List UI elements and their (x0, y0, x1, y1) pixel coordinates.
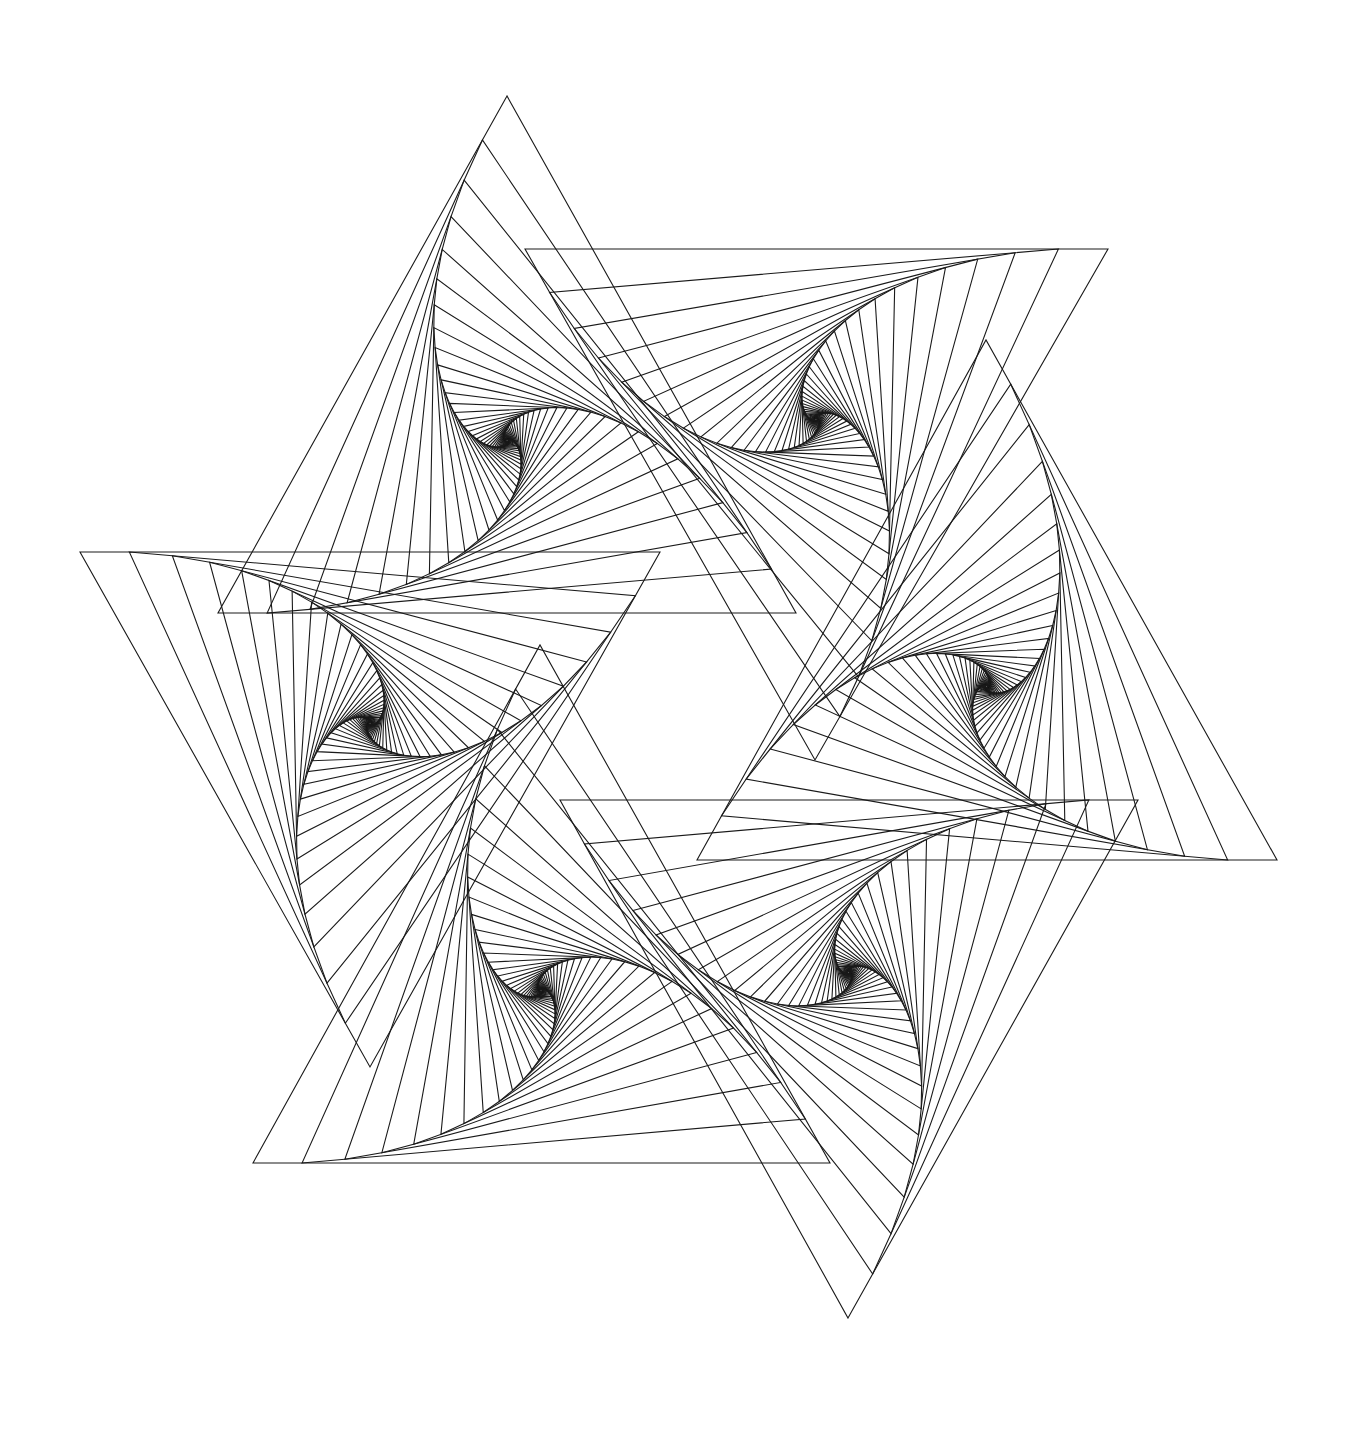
whirl-triangle (683, 299, 889, 531)
whirl-triangle (345, 729, 781, 1159)
whirl-triangle (379, 249, 700, 594)
whirl-triangle (855, 573, 1060, 809)
whirl-triangle (697, 340, 1277, 860)
whirl-triangle (310, 180, 747, 609)
whirl-triangle (836, 550, 1065, 821)
whirl-triangle (434, 328, 639, 563)
whirl-triangle (242, 571, 564, 914)
vortex-top-left (218, 96, 796, 613)
whirl-triangle (429, 305, 657, 574)
artwork-canvas: Hexagram of six whirling triangles (0, 0, 1355, 1439)
vortex-left (80, 552, 660, 1067)
whirl-triangle (292, 591, 521, 859)
whirl-triangle (172, 556, 610, 983)
vortex-right (697, 340, 1277, 860)
whirl-triangle (656, 819, 977, 1164)
whirl-triangle (746, 425, 1185, 857)
whirl-triangle (698, 839, 926, 1109)
whirl-triangle (609, 804, 1046, 1234)
whirl-triangle (717, 850, 921, 1085)
whirl-triangle (218, 96, 796, 613)
hexagram-whirl-drawing (0, 0, 1355, 1439)
whirl-triangle (297, 602, 502, 836)
whirl-triangle (468, 877, 673, 1113)
whirl-triangle (80, 552, 660, 1067)
whirl-triangle (664, 288, 894, 554)
